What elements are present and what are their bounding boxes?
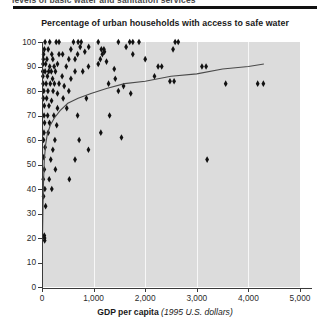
y-tick-label: 30 bbox=[4, 208, 36, 218]
trend-line bbox=[43, 64, 264, 236]
y-tick bbox=[38, 165, 42, 166]
data-point bbox=[42, 102, 46, 109]
x-axis-title-units: (1995 U.S. dollars) bbox=[161, 307, 233, 317]
data-point bbox=[57, 80, 61, 87]
data-point bbox=[42, 129, 46, 136]
data-point bbox=[107, 80, 111, 87]
data-point bbox=[176, 39, 180, 46]
data-point bbox=[50, 98, 54, 105]
data-point bbox=[51, 88, 55, 95]
data-point bbox=[44, 80, 48, 87]
data-point bbox=[105, 58, 109, 65]
data-point bbox=[49, 156, 53, 163]
x-tick bbox=[197, 288, 198, 292]
data-point bbox=[44, 203, 48, 210]
data-point bbox=[45, 95, 49, 102]
x-tick bbox=[42, 288, 43, 292]
data-point bbox=[224, 80, 228, 87]
data-point bbox=[43, 120, 47, 127]
data-point bbox=[256, 80, 260, 87]
data-point bbox=[73, 68, 77, 75]
x-tick bbox=[248, 288, 249, 292]
y-tick bbox=[38, 91, 42, 92]
data-point bbox=[47, 102, 51, 109]
data-point bbox=[72, 39, 76, 46]
plot-area bbox=[42, 42, 300, 287]
data-point bbox=[160, 63, 164, 70]
x-axis-title-main: GDP per capita bbox=[97, 307, 158, 317]
data-point bbox=[87, 147, 91, 154]
data-point bbox=[99, 129, 103, 136]
y-tick bbox=[38, 42, 42, 43]
data-point bbox=[77, 137, 81, 144]
x-tick-label: 5,000 bbox=[270, 293, 330, 303]
data-point bbox=[51, 75, 55, 82]
y-tick bbox=[38, 67, 42, 68]
chart-title: Percentage of urban households with acce… bbox=[0, 18, 330, 28]
data-point bbox=[261, 80, 265, 87]
y-tick bbox=[38, 189, 42, 190]
data-point bbox=[69, 75, 73, 82]
data-point bbox=[48, 39, 52, 46]
data-point bbox=[61, 51, 65, 58]
y-tick-label: 100 bbox=[4, 37, 36, 47]
data-point bbox=[153, 73, 157, 80]
data-point bbox=[46, 112, 50, 119]
data-point bbox=[62, 83, 66, 90]
y-tick-label: 70 bbox=[4, 110, 36, 120]
data-point bbox=[108, 112, 112, 119]
data-point bbox=[81, 68, 85, 75]
data-point bbox=[43, 68, 47, 75]
data-layer bbox=[42, 42, 300, 287]
y-tick-label: 50 bbox=[4, 159, 36, 169]
x-tick bbox=[94, 288, 95, 292]
x-tick bbox=[145, 288, 146, 292]
data-point bbox=[53, 137, 57, 144]
y-tick bbox=[38, 140, 42, 141]
y-tick-label: 60 bbox=[4, 135, 36, 145]
data-point bbox=[171, 46, 175, 53]
data-point bbox=[98, 56, 102, 63]
data-point bbox=[87, 63, 91, 70]
data-point bbox=[137, 39, 141, 46]
data-point bbox=[56, 90, 60, 97]
data-point bbox=[113, 75, 117, 82]
data-point bbox=[168, 78, 172, 85]
data-point bbox=[112, 66, 116, 73]
data-point bbox=[96, 39, 100, 46]
data-point bbox=[48, 80, 52, 87]
data-point bbox=[69, 46, 73, 53]
scatter-markers bbox=[41, 39, 265, 244]
top-caption: levels of basic water and sanitation ser… bbox=[12, 0, 318, 5]
data-point bbox=[57, 51, 61, 58]
data-point bbox=[55, 122, 59, 129]
x-axis-line bbox=[42, 288, 312, 289]
y-tick-label: 80 bbox=[4, 86, 36, 96]
header-rule bbox=[13, 6, 317, 10]
data-point bbox=[205, 156, 209, 163]
data-point bbox=[46, 88, 50, 95]
data-point bbox=[57, 39, 61, 46]
data-point bbox=[172, 78, 176, 85]
data-point bbox=[124, 44, 128, 51]
data-point bbox=[60, 73, 64, 80]
y-tick-label: 0 bbox=[4, 282, 36, 292]
x-axis-title: GDP per capita (1995 U.S. dollars) bbox=[0, 307, 330, 317]
data-point bbox=[50, 186, 54, 193]
y-tick-label: 20 bbox=[4, 233, 36, 243]
y-tick-label: 40 bbox=[4, 184, 36, 194]
y-tick-label: 90 bbox=[4, 61, 36, 71]
data-point bbox=[42, 46, 46, 53]
data-point bbox=[67, 176, 71, 183]
y-tick bbox=[38, 263, 42, 264]
data-point bbox=[46, 46, 50, 53]
data-point bbox=[47, 176, 51, 183]
data-point bbox=[61, 95, 65, 102]
x-tick bbox=[300, 288, 301, 292]
data-point bbox=[156, 63, 160, 70]
data-point bbox=[83, 49, 87, 56]
data-point bbox=[131, 51, 135, 58]
data-point bbox=[54, 166, 58, 173]
data-point bbox=[56, 61, 60, 68]
data-point bbox=[67, 56, 71, 63]
